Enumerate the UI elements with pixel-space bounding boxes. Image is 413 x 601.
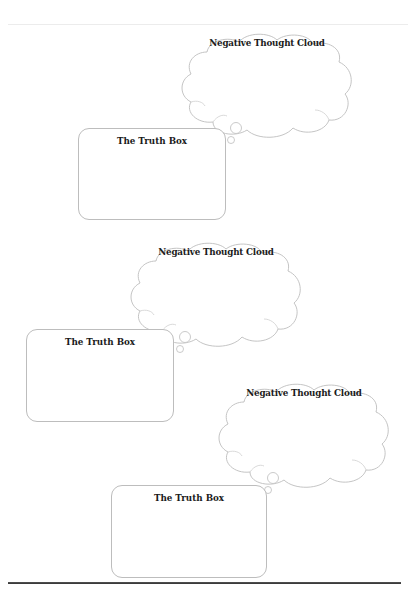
thought-cloud-icon <box>214 380 394 500</box>
bottom-divider <box>8 582 401 584</box>
top-divider <box>8 24 408 25</box>
negative-thought-cloud-3: Negative Thought Cloud <box>214 380 394 494</box>
truth-box-3[interactable]: The Truth Box <box>111 485 267 578</box>
truth-box-title: The Truth Box <box>118 492 260 503</box>
cloud-label: Negative Thought Cloud <box>184 37 350 48</box>
truth-box-1[interactable]: The Truth Box <box>78 128 226 220</box>
truth-box-title: The Truth Box <box>85 135 219 146</box>
negative-thought-cloud-1: Negative Thought Cloud <box>177 30 357 144</box>
truth-box-2[interactable]: The Truth Box <box>26 329 174 422</box>
cloud-label: Negative Thought Cloud <box>133 246 299 257</box>
truth-box-title: The Truth Box <box>33 336 167 347</box>
cloud-label: Negative Thought Cloud <box>221 387 387 398</box>
